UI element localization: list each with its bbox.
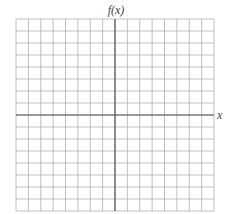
x-axis-label: x: [216, 108, 223, 122]
y-axis-label: f(x): [108, 3, 125, 17]
coordinate-grid: f(x) x: [0, 0, 235, 214]
